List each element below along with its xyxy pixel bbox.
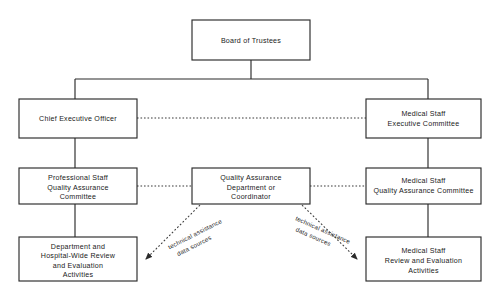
node-group: Board of Trustees Chief Executive Office… (19, 20, 481, 281)
edge-note-left: technical assistance data sources (167, 217, 228, 259)
node-professional-staff-quality-assurance-committee[interactable]: Professional Staff Quality Assurance Com… (19, 168, 137, 204)
node-board-of-trustees-line-1: Board of Trustees (221, 37, 281, 45)
node-medical-staff-quality-assurance-committee-line-1: Medical Staff (401, 177, 445, 185)
node-medical-staff-review-and-evaluation-line-3: Activities (408, 267, 439, 275)
node-professional-staff-quality-assurance-committee-line-2: Quality Assurance (47, 184, 108, 192)
node-department-and-hospital-wide-review-line-2: Hospital-Wide Review (41, 252, 116, 260)
node-quality-assurance-department-or-coordinator[interactable]: Quality Assurance Department or Coordina… (192, 168, 310, 204)
edge-note-right: technical assistance data sources (290, 214, 351, 254)
node-department-and-hospital-wide-review[interactable]: Department and Hospital-Wide Review and … (19, 237, 137, 281)
node-professional-staff-quality-assurance-committee-line-3: Committee (60, 193, 97, 201)
node-medical-staff-executive-committee-line-1: Medical Staff (401, 110, 445, 118)
node-department-and-hospital-wide-review-line-3: and Evaluation (53, 262, 103, 270)
node-professional-staff-quality-assurance-committee-line-1: Professional Staff (48, 174, 108, 182)
node-department-and-hospital-wide-review-line-4: Activities (63, 271, 94, 279)
node-medical-staff-quality-assurance-committee-box[interactable] (366, 168, 481, 204)
node-department-and-hospital-wide-review-line-1: Department and (51, 243, 105, 251)
node-chief-executive-officer-line-1: Chief Executive Officer (39, 115, 117, 123)
diagram-canvas: Board of Trustees Chief Executive Office… (0, 0, 499, 297)
connector-group-solid (75, 60, 428, 237)
node-medical-staff-quality-assurance-committee[interactable]: Medical Staff Quality Assurance Committe… (366, 168, 481, 204)
node-medical-staff-review-and-evaluation[interactable]: Medical Staff Review and Evaluation Acti… (366, 237, 481, 281)
node-medical-staff-executive-committee-line-2: Executive Committee (388, 120, 460, 128)
node-medical-staff-executive-committee-box[interactable] (366, 99, 481, 138)
node-medical-staff-quality-assurance-committee-line-2: Quality Assurance Committee (373, 187, 473, 195)
node-medical-staff-review-and-evaluation-line-2: Review and Evaluation (385, 257, 462, 265)
edge-note-group: technical assistance data sources techni… (167, 214, 352, 259)
node-medical-staff-executive-committee[interactable]: Medical Staff Executive Committee (366, 99, 481, 138)
node-quality-assurance-department-or-coordinator-line-3: Coordinator (231, 193, 271, 201)
node-quality-assurance-department-or-coordinator-line-1: Quality Assurance (220, 174, 281, 182)
org-chart-diagram: Board of Trustees Chief Executive Office… (0, 0, 499, 297)
node-quality-assurance-department-or-coordinator-line-2: Department or (227, 184, 276, 192)
node-chief-executive-officer[interactable]: Chief Executive Officer (19, 99, 137, 138)
node-medical-staff-review-and-evaluation-line-1: Medical Staff (401, 247, 445, 255)
node-board-of-trustees[interactable]: Board of Trustees (192, 20, 310, 60)
